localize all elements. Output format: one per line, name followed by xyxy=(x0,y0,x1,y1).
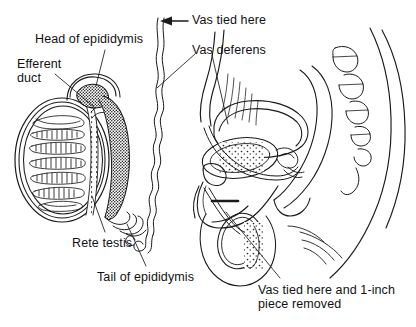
rectum xyxy=(274,66,332,216)
label-tail-of-epididymis: Tail of epididymis xyxy=(97,270,194,284)
scrotum-testis xyxy=(200,209,275,286)
label-vas-tied-removed-line1: Vas tied here and 1-inch xyxy=(258,283,395,297)
vasectomy-diagram: Head of epididymis Efferentduct Vas tied… xyxy=(0,0,416,327)
leader-rete-testis xyxy=(92,196,105,232)
label-rete-testis: Rete testis xyxy=(72,236,132,250)
label-vas-tied-here: Vas tied here xyxy=(192,13,266,27)
leader-head-of-epididymis xyxy=(96,50,105,86)
label-vas-deferens: Vas deferens xyxy=(192,43,266,57)
penis xyxy=(194,182,278,228)
label-vas-tied-removed-line2: piece removed xyxy=(258,297,341,311)
label-efferent-duct-line2: duct xyxy=(17,71,41,85)
sacrum-vertebrae xyxy=(333,46,371,194)
label-efferent-duct: Efferentduct xyxy=(17,57,61,85)
seminiferous-tubule-lobules xyxy=(30,116,86,212)
label-vas-tied-removed: Vas tied here and 1-inchpiece removed xyxy=(258,283,395,311)
label-efferent-duct-line1: Efferent xyxy=(17,57,61,71)
vas-deferens-coiled xyxy=(126,18,165,253)
buttock-outline xyxy=(330,28,405,278)
label-head-of-epididymis: Head of epididymis xyxy=(35,32,143,46)
gluteal-fold xyxy=(288,226,342,264)
